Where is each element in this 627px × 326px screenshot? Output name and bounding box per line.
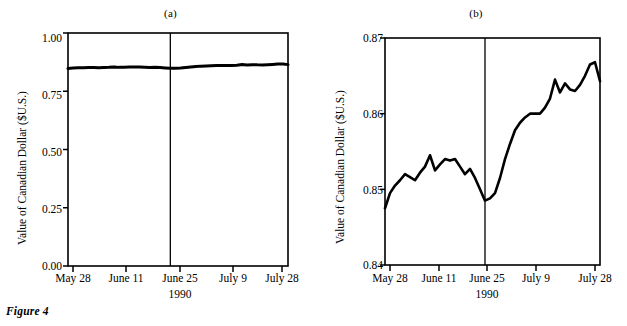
panel-b-xtick-july-9: July 9 bbox=[522, 272, 550, 284]
panel-b-plot-area bbox=[313, 0, 627, 300]
panel-a-xtick-july-9: July 9 bbox=[219, 272, 247, 284]
panel-b-xtick-june-11: June 11 bbox=[421, 272, 456, 284]
figure-caption: Figure 4 bbox=[6, 305, 49, 317]
panel-b-x-axis-label: 1990 bbox=[476, 288, 499, 300]
panel-a-x-axis-label: 1990 bbox=[169, 288, 192, 300]
chart-panel-b: (b) Value of Canadian Dollar ($U.S.) 0.8… bbox=[313, 0, 627, 300]
panel-b-xtick-may-28: May 28 bbox=[372, 272, 407, 284]
plot-frame bbox=[385, 38, 600, 265]
panel-b-xtick-june-25: June 25 bbox=[469, 272, 504, 284]
panel-a-xtick-july-28: July 28 bbox=[265, 272, 299, 284]
panel-a-xtick-may-28: May 28 bbox=[55, 272, 90, 284]
data-series-line bbox=[68, 64, 288, 68]
panel-a-plot-area bbox=[0, 0, 313, 300]
chart-panel-a: (a) Value of Canadian Dollar ($U.S.) 1.0… bbox=[0, 0, 313, 300]
panel-a-xtick-june-25: June 25 bbox=[162, 272, 197, 284]
data-series-line bbox=[385, 62, 600, 208]
figure-4: (a) Value of Canadian Dollar ($U.S.) 1.0… bbox=[0, 0, 627, 326]
panel-b-xtick-july-28: July 28 bbox=[578, 272, 612, 284]
panel-a-xtick-june-11: June 11 bbox=[108, 272, 143, 284]
